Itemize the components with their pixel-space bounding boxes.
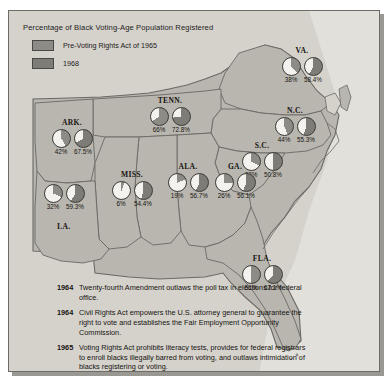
pie-value-alabama-post: 56.7%: [190, 193, 208, 199]
pie-value-mississippi-pre: 6%: [116, 201, 125, 207]
pie-chart-arkansas-post: [74, 129, 93, 148]
pie-pair-virginia: 38% 58.4%: [271, 57, 333, 83]
pie-value-georgia-pre: 26%: [218, 193, 231, 199]
pie-pair-louisiana: 32% 59.3%: [33, 184, 95, 210]
timeline-entry: 1965 Voting Rights Act prohibits literac…: [57, 343, 313, 372]
state-marker-north-carolina: N.C. 44% 55.3%: [264, 107, 326, 143]
pie-chart-arkansas-pre: [52, 129, 71, 148]
state-marker-mississippi: MISS. 6% 54.4%: [101, 171, 163, 207]
timeline-year: 1965: [57, 343, 79, 353]
pie-value-georgia-post: 56.1%: [237, 193, 255, 199]
pie-cell-arkansas-pre: 42%: [52, 129, 71, 155]
legend-label-1968: 1968: [63, 59, 79, 68]
pie-chart-alabama-pre: [168, 173, 187, 192]
pie-chart-louisiana-pre: [44, 184, 63, 203]
pie-chart-florida-pre: [242, 265, 261, 284]
pie-chart-tennessee-pre: [150, 107, 169, 126]
timeline-text: Civil Rights Act empowers the U.S. attor…: [79, 308, 313, 337]
pie-cell-mississippi-pre: 6%: [112, 181, 131, 207]
state-label-north-carolina: N.C.: [264, 107, 326, 115]
legend-title: Percentage of Black Voting-Age Populatio…: [23, 23, 263, 32]
map-card: Percentage of Black Voting-Age Populatio…: [8, 10, 380, 372]
pie-chart-south-carolina-post: [264, 152, 283, 171]
pie-chart-florida-post: [264, 265, 283, 284]
legend-swatch-pre: [32, 40, 54, 51]
pie-cell-north-carolina-post: 55.3%: [297, 117, 316, 143]
state-marker-tennessee: TENN. 66% 72.8%: [139, 97, 201, 133]
state-label-arkansas: ARK.: [41, 119, 103, 127]
pie-value-virginia-pre: 38%: [285, 77, 298, 83]
state-marker-alabama: ALA. 19% 56.7%: [157, 163, 219, 199]
state-label-louisiana-wrap: I.A.: [57, 223, 70, 231]
pie-chart-north-carolina-post: [297, 117, 316, 136]
pie-value-south-carolina-post: 50.8%: [264, 172, 282, 178]
state-marker-virginia: VA. 38% 58.4%: [271, 47, 333, 83]
pie-cell-arkansas-post: 67.5%: [74, 129, 93, 155]
pie-chart-louisiana-post: [66, 184, 85, 203]
pie-cell-tennessee-post: 72.8%: [172, 107, 191, 133]
pie-value-virginia-post: 58.4%: [304, 77, 322, 83]
timeline-year: 1964: [57, 308, 79, 318]
pie-chart-alabama-post: [190, 173, 209, 192]
pie-pair-tennessee: 66% 72.8%: [139, 107, 201, 133]
state-label-louisiana: I.A.: [57, 223, 70, 231]
pie-cell-louisiana-post: 59.3%: [66, 184, 85, 210]
pie-cell-south-carolina-post: 50.8%: [264, 152, 283, 178]
pie-value-arkansas-pre: 42%: [55, 149, 68, 155]
pie-value-louisiana-post: 59.3%: [66, 204, 84, 210]
pie-pair-alabama: 19% 56.7%: [157, 173, 219, 199]
pie-value-mississippi-post: 54.4%: [134, 201, 152, 207]
pie-value-louisiana-pre: 32%: [47, 204, 60, 210]
pie-cell-mississippi-post: 54.4%: [134, 181, 153, 207]
legend-label-pre: Pre-Voting Rights Act of 1965: [63, 41, 157, 50]
legend: Percentage of Black Voting-Age Populatio…: [23, 23, 263, 76]
state-label-florida: FLA.: [231, 255, 293, 263]
pie-cell-georgia-post: 56.1%: [237, 173, 256, 199]
state-marker-arkansas: ARK. 42% 67.5%: [41, 119, 103, 155]
legend-item-1968: 1968: [23, 58, 263, 69]
pie-cell-north-carolina-pre: 44%: [275, 117, 294, 143]
timeline-text: Twenty-fourth Amendment outlaws the poll…: [79, 283, 313, 302]
pie-cell-virginia-pre: 38%: [282, 57, 301, 83]
pie-cell-tennessee-pre: 66%: [150, 107, 169, 133]
pie-chart-virginia-post: [304, 57, 323, 76]
pie-chart-virginia-pre: [282, 57, 301, 76]
pie-cell-alabama-post: 56.7%: [190, 173, 209, 199]
map-figure: Percentage of Black Voting-Age Populatio…: [0, 0, 390, 387]
state-label-mississippi: MISS.: [101, 171, 163, 179]
pie-chart-tennessee-post: [172, 107, 191, 126]
state-label-tennessee: TENN.: [139, 97, 201, 105]
pie-value-tennessee-post: 72.8%: [172, 127, 190, 133]
legend-item-pre: Pre-Voting Rights Act of 1965: [23, 40, 263, 51]
pie-value-north-carolina-post: 55.3%: [297, 137, 315, 143]
state-marker-louisiana: 32% 59.3%: [33, 184, 95, 210]
timeline-entry: 1964 Twenty-fourth Amendment outlaws the…: [57, 283, 313, 302]
pie-chart-mississippi-pre: [112, 181, 131, 200]
pie-pair-north-carolina: 44% 55.3%: [264, 117, 326, 143]
state-label-virginia: VA.: [271, 47, 333, 55]
pie-pair-arkansas: 42% 67.5%: [41, 129, 103, 155]
pie-value-alabama-pre: 19%: [171, 193, 184, 199]
legend-swatch-1968: [32, 58, 54, 69]
pie-pair-mississippi: 6% 54.4%: [101, 181, 163, 207]
state-label-south-carolina: S.C.: [231, 142, 293, 150]
state-label-alabama: ALA.: [157, 163, 219, 171]
pie-chart-mississippi-post: [134, 181, 153, 200]
legislation-timeline: 1964 Twenty-fourth Amendment outlaws the…: [57, 283, 313, 372]
pie-cell-louisiana-pre: 32%: [44, 184, 63, 210]
pie-cell-alabama-pre: 19%: [168, 173, 187, 199]
timeline-text: Voting Rights Act prohibits literacy tes…: [79, 343, 313, 372]
pie-value-arkansas-post: 67.5%: [74, 149, 92, 155]
timeline-entry: 1964 Civil Rights Act empowers the U.S. …: [57, 308, 313, 337]
pie-chart-north-carolina-pre: [275, 117, 294, 136]
timeline-year: 1964: [57, 283, 79, 293]
pie-value-tennessee-pre: 66%: [153, 127, 166, 133]
pie-chart-georgia-post: [237, 173, 256, 192]
pie-cell-virginia-post: 58.4%: [304, 57, 323, 83]
